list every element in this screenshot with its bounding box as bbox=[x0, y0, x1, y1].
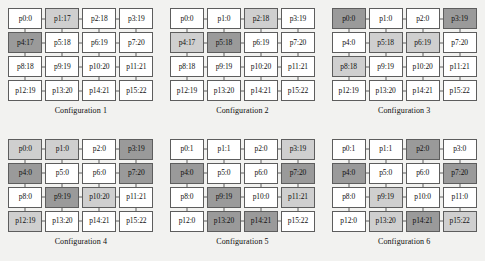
processor-node[interactable]: p13:20 bbox=[369, 80, 403, 101]
processor-node[interactable]: p3:19 bbox=[281, 8, 315, 29]
processor-node[interactable]: p1:0 bbox=[369, 8, 403, 29]
processor-node[interactable]: p9:19 bbox=[45, 56, 79, 77]
processor-node[interactable]: p4:17 bbox=[170, 32, 204, 53]
processor-node[interactable]: p14:21 bbox=[244, 211, 278, 232]
processor-node[interactable]: p9:19 bbox=[45, 187, 79, 208]
processor-mesh-4: p0:0p1:0p2:0p3:19p4:0p5:0p6:0p7:20p8:0p9… bbox=[8, 139, 153, 232]
processor-node[interactable]: p4:0 bbox=[8, 163, 42, 184]
processor-node[interactable]: p14:21 bbox=[82, 211, 116, 232]
processor-node[interactable]: p2:18 bbox=[244, 8, 278, 29]
processor-node[interactable]: p3:0 bbox=[443, 139, 477, 160]
processor-node[interactable]: p6:0 bbox=[244, 163, 278, 184]
processor-node[interactable]: p13:20 bbox=[369, 211, 403, 232]
config-caption: Configuration 2 bbox=[216, 106, 268, 115]
processor-node[interactable]: p3:19 bbox=[281, 139, 315, 160]
processor-node[interactable]: p7:20 bbox=[281, 32, 315, 53]
processor-node[interactable]: p15:22 bbox=[119, 211, 153, 232]
processor-node[interactable]: p1:1 bbox=[369, 139, 403, 160]
processor-node[interactable]: p0:0 bbox=[332, 8, 366, 29]
processor-node[interactable]: p8:0 bbox=[8, 187, 42, 208]
processor-node[interactable]: p14:21 bbox=[406, 80, 440, 101]
processor-node[interactable]: p13:20 bbox=[45, 80, 79, 101]
processor-node[interactable]: p2:18 bbox=[82, 8, 116, 29]
processor-node[interactable]: p7:20 bbox=[119, 163, 153, 184]
processor-node[interactable]: p5:0 bbox=[45, 163, 79, 184]
configurations-figure: p0:0p1:17p2:18p3:19p4:17p5:18p6:19p7:20p… bbox=[0, 0, 485, 261]
processor-node[interactable]: p5:0 bbox=[369, 163, 403, 184]
processor-node[interactable]: p10:0 bbox=[406, 187, 440, 208]
processor-node[interactable]: p7:20 bbox=[119, 32, 153, 53]
processor-node[interactable]: p15:22 bbox=[443, 211, 477, 232]
processor-node[interactable]: p10:20 bbox=[406, 56, 440, 77]
processor-node[interactable]: p12:19 bbox=[170, 80, 204, 101]
processor-node[interactable]: p15:22 bbox=[119, 80, 153, 101]
processor-node[interactable]: p7:20 bbox=[443, 163, 477, 184]
processor-node[interactable]: p6:19 bbox=[406, 32, 440, 53]
processor-node[interactable]: p3:19 bbox=[443, 8, 477, 29]
processor-node[interactable]: p11:21 bbox=[443, 56, 477, 77]
processor-node[interactable]: p13:20 bbox=[207, 211, 241, 232]
processor-node[interactable]: p11:21 bbox=[119, 187, 153, 208]
processor-node[interactable]: p7:20 bbox=[443, 32, 477, 53]
processor-node[interactable]: p12:19 bbox=[8, 211, 42, 232]
processor-node[interactable]: p6:0 bbox=[82, 163, 116, 184]
processor-node[interactable]: p1:1 bbox=[207, 139, 241, 160]
processor-node[interactable]: p8:0 bbox=[332, 187, 366, 208]
processor-node[interactable]: p5:18 bbox=[207, 32, 241, 53]
processor-node[interactable]: p10:20 bbox=[244, 56, 278, 77]
processor-node[interactable]: p5:18 bbox=[45, 32, 79, 53]
processor-node[interactable]: p5:18 bbox=[369, 32, 403, 53]
processor-node[interactable]: p3:19 bbox=[119, 8, 153, 29]
processor-node[interactable]: p9:19 bbox=[369, 187, 403, 208]
processor-node[interactable]: p12:19 bbox=[332, 80, 366, 101]
processor-node[interactable]: p11:21 bbox=[281, 56, 315, 77]
processor-node[interactable]: p6:19 bbox=[82, 32, 116, 53]
processor-node[interactable]: p8:18 bbox=[8, 56, 42, 77]
processor-node[interactable]: p12:19 bbox=[8, 80, 42, 101]
processor-node[interactable]: p2:0 bbox=[406, 139, 440, 160]
processor-node[interactable]: p15:22 bbox=[443, 80, 477, 101]
processor-node[interactable]: p11:0 bbox=[443, 187, 477, 208]
processor-node[interactable]: p0:0 bbox=[8, 139, 42, 160]
processor-node[interactable]: p4:17 bbox=[8, 32, 42, 53]
processor-node[interactable]: p4:0 bbox=[170, 163, 204, 184]
processor-node[interactable]: p11:21 bbox=[281, 187, 315, 208]
processor-node[interactable]: p1:0 bbox=[45, 139, 79, 160]
processor-node[interactable]: p7:20 bbox=[281, 163, 315, 184]
processor-node[interactable]: p0:0 bbox=[170, 8, 204, 29]
processor-node[interactable]: p10:0 bbox=[244, 187, 278, 208]
processor-node[interactable]: p2:0 bbox=[82, 139, 116, 160]
processor-node[interactable]: p0:1 bbox=[170, 139, 204, 160]
processor-node[interactable]: p2:0 bbox=[406, 8, 440, 29]
processor-node[interactable]: p3:19 bbox=[119, 139, 153, 160]
processor-node[interactable]: p4:0 bbox=[332, 32, 366, 53]
processor-node[interactable]: p15:22 bbox=[281, 80, 315, 101]
processor-node[interactable]: p1:17 bbox=[45, 8, 79, 29]
processor-node[interactable]: p14:21 bbox=[244, 80, 278, 101]
processor-node[interactable]: p6:0 bbox=[406, 163, 440, 184]
processor-node[interactable]: p4:0 bbox=[332, 163, 366, 184]
processor-node[interactable]: p8:0 bbox=[170, 187, 204, 208]
processor-node[interactable]: p14:21 bbox=[82, 80, 116, 101]
processor-node[interactable]: p9:19 bbox=[369, 56, 403, 77]
processor-node[interactable]: p5:0 bbox=[207, 163, 241, 184]
processor-node[interactable]: p0:1 bbox=[332, 139, 366, 160]
processor-node[interactable]: p14:21 bbox=[406, 211, 440, 232]
processor-mesh-6: p0:1p1:1p2:0p3:0p4:0p5:0p6:0p7:20p8:0p9:… bbox=[332, 139, 477, 232]
processor-node[interactable]: p8:18 bbox=[332, 56, 366, 77]
processor-node[interactable]: p9:19 bbox=[207, 56, 241, 77]
processor-node[interactable]: p15:22 bbox=[281, 211, 315, 232]
processor-node[interactable]: p6:19 bbox=[244, 32, 278, 53]
processor-node[interactable]: p8:18 bbox=[170, 56, 204, 77]
processor-node[interactable]: p10:20 bbox=[82, 56, 116, 77]
processor-node[interactable]: p0:0 bbox=[8, 8, 42, 29]
processor-node[interactable]: p11:21 bbox=[119, 56, 153, 77]
processor-node[interactable]: p12:0 bbox=[170, 211, 204, 232]
processor-node[interactable]: p9:19 bbox=[207, 187, 241, 208]
processor-node[interactable]: p12:0 bbox=[332, 211, 366, 232]
processor-node[interactable]: p13:20 bbox=[45, 211, 79, 232]
processor-node[interactable]: p1:0 bbox=[207, 8, 241, 29]
processor-node[interactable]: p13:20 bbox=[207, 80, 241, 101]
processor-node[interactable]: p2:0 bbox=[244, 139, 278, 160]
processor-node[interactable]: p10:20 bbox=[82, 187, 116, 208]
